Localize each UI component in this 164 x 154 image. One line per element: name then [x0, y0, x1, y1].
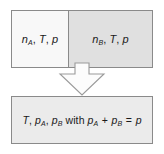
result-pressure-b-symbol: p — [52, 114, 58, 126]
result-container: T, pA, pB with pA + pB = p — [11, 96, 153, 144]
chamber-a-pressure-symbol: p — [52, 33, 58, 45]
chamber-b: nB, T, p — [69, 11, 152, 67]
chamber-a-amount-subscript: A — [28, 39, 33, 46]
result-total-pressure-symbol: p — [136, 114, 142, 126]
result-conjunction: with — [62, 114, 87, 126]
result-sum-b-subscript: B — [118, 120, 123, 127]
chamber-a: nA, T, p — [12, 11, 69, 67]
chamber-b-amount-subscript: B — [98, 39, 103, 46]
result-label: T, pA, pB with pA + pB = p — [22, 114, 141, 126]
chamber-a-temperature-symbol: T — [39, 33, 46, 45]
result-equals-operator: = — [122, 114, 135, 126]
result-sum-a-subscript: A — [94, 120, 99, 127]
result-sum-a-symbol: p — [88, 114, 94, 126]
chamber-a-amount-symbol: n — [22, 33, 28, 45]
down-block-arrow-icon — [58, 62, 106, 97]
result-pressure-a-subscript: A — [41, 120, 46, 127]
result-pressure-b-subscript: B — [58, 120, 63, 127]
result-plus-operator: + — [98, 114, 111, 126]
chamber-b-label: nB, T, p — [92, 33, 129, 45]
chamber-a-label: nA, T, p — [22, 33, 59, 45]
result-sum-b-symbol: p — [112, 114, 118, 126]
top-container: nA, T, p nB, T, p — [11, 10, 153, 68]
partial-pressure-diagram: nA, T, p nB, T, p T, pA, pB with pA + pB… — [0, 0, 164, 154]
chamber-b-pressure-symbol: p — [123, 33, 129, 45]
